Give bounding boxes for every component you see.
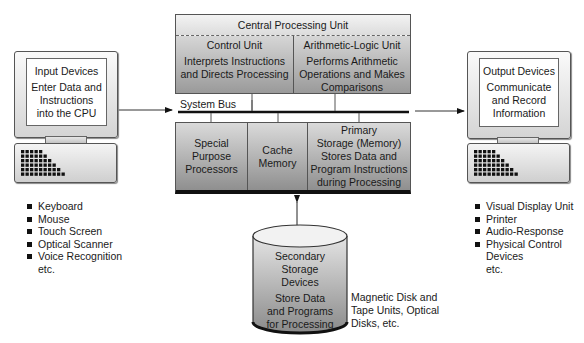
input-example: Touch Screen: [27, 225, 147, 238]
output-etc: etc.: [475, 263, 584, 276]
primary-line: during Processing: [317, 176, 401, 189]
output-line: Communicate: [487, 81, 552, 94]
alu-line: Performs Arithmetic: [306, 55, 398, 68]
secondary-line: Secondary: [252, 250, 348, 263]
input-example: Voice Recognition: [27, 250, 147, 263]
cache-line: Cache: [262, 144, 292, 157]
secondary-example: Magnetic Disk and: [351, 291, 439, 304]
output-keyboard: [467, 143, 570, 183]
control-unit-line: and Directs Processing: [181, 68, 289, 81]
input-line: into the CPU: [37, 107, 97, 120]
cache-line: Memory: [259, 157, 297, 170]
control-unit-line: Interprets Instructions: [184, 55, 285, 68]
primary-line: Stores Data and: [321, 150, 397, 163]
output-example: Printer: [475, 213, 584, 226]
output-title: Output Devices: [483, 65, 555, 78]
secondary-line: Devices: [252, 276, 348, 289]
special-line: Special: [194, 137, 228, 150]
input-examples: Keyboard Mouse Touch Screen Optical Scan…: [27, 200, 147, 275]
output-monitor: Output Devices Communicate and Record In…: [467, 51, 571, 139]
input-keyboard: [14, 143, 117, 183]
primary-line: Program Instructions: [311, 163, 408, 176]
output-example: Visual Display Unit: [475, 200, 584, 213]
input-example: Keyboard: [27, 200, 147, 213]
output-line: Information: [493, 107, 546, 120]
output-example-cont: Devices: [475, 250, 584, 263]
alu: Arithmetic-Logic Unit Performs Arithmeti…: [294, 36, 410, 93]
control-unit: Control Unit Interprets Instructions and…: [176, 36, 294, 93]
input-example: Mouse: [27, 213, 147, 226]
input-line: Enter Data and: [31, 81, 102, 94]
memory-units-box: Special Purpose Processors Cache Memory …: [175, 122, 411, 194]
system-bus-label: System Bus: [180, 98, 250, 111]
control-unit-title: Control Unit: [207, 39, 262, 52]
input-line: Instructions: [40, 94, 94, 107]
output-example: Audio-Response: [475, 225, 584, 238]
input-example: Optical Scanner: [27, 238, 147, 251]
secondary-example: Disks, etc.: [351, 317, 439, 330]
secondary-storage-text: Secondary Storage Devices Store Data and…: [252, 250, 348, 331]
input-monitor: Input Devices Enter Data and Instruction…: [14, 51, 118, 138]
alu-title: Arithmetic-Logic Unit: [304, 39, 401, 52]
output-line: and Record: [492, 94, 546, 107]
alu-line: Operations and Makes: [299, 68, 405, 81]
secondary-desc: for Processing: [252, 318, 348, 331]
special-line: Purpose: [192, 150, 231, 163]
primary-storage: Primary Storage (Memory) Stores Data and…: [308, 123, 410, 190]
cpu-box: Central Processing Unit Control Unit Int…: [175, 14, 411, 94]
output-examples: Visual Display Unit Printer Audio-Respon…: [475, 200, 584, 275]
primary-line: Storage (Memory): [317, 137, 402, 150]
special-purpose-processors: Special Purpose Processors: [176, 123, 248, 190]
cpu-title: Central Processing Unit: [176, 15, 410, 36]
input-screen: Input Devices Enter Data and Instruction…: [26, 58, 107, 126]
output-screen: Output Devices Communicate and Record In…: [479, 58, 559, 127]
secondary-desc: and Programs: [252, 305, 348, 318]
secondary-example: Tape Units, Optical: [351, 304, 439, 317]
keyboard-keys-icon: [474, 150, 524, 178]
primary-line: Primary: [341, 124, 377, 137]
secondary-line: Storage: [252, 263, 348, 276]
input-etc: etc.: [27, 263, 147, 276]
special-line: Processors: [185, 163, 238, 176]
input-title: Input Devices: [35, 65, 99, 78]
output-example: Physical Control: [475, 238, 584, 251]
secondary-examples: Magnetic Disk and Tape Units, Optical Di…: [351, 291, 439, 330]
cache-memory: Cache Memory: [248, 123, 308, 190]
secondary-desc: Store Data: [252, 292, 348, 305]
keyboard-keys-icon: [21, 150, 71, 178]
alu-line: Comparisons: [321, 81, 383, 94]
